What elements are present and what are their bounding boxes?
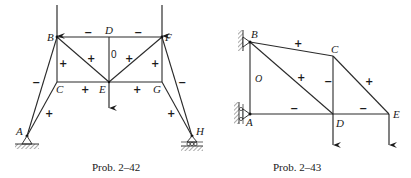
sign-CE: + [365,76,373,87]
sign-FG: + [151,58,159,69]
sign-BE: + [87,53,95,64]
figure-prob-2-42: B D F C E G A H − − + + 0 + + + + − + − … [15,5,205,173]
pin-support-icon [15,136,39,149]
node-label-D: D [104,24,113,36]
wall-pin-support-icon [238,30,250,51]
figure-prob-2-43: B C A D E + O + − + − − Prob. 2–43 [234,28,400,173]
truss-diagrams: B D F C E G A H − − + + 0 + + + + − + − … [0,0,411,178]
sign-DE: 0 [111,49,117,60]
node-label-B: B [251,28,258,40]
sign-CD: − [324,76,332,87]
sign-AC: + [45,108,53,119]
joint-B [56,36,59,39]
sign-CE: + [81,84,89,95]
node-label-A: A [15,125,23,137]
sign-HF: − [178,77,186,88]
node-label-F: F [164,31,172,43]
joint-F [161,36,164,39]
node-label-C: C [56,83,64,95]
node-label-B: B [47,31,54,43]
sign-EG: + [133,84,141,95]
sign-BC: + [59,58,67,69]
node-label-G: G [153,83,161,95]
sign-BD: − [84,27,92,38]
sign-DE: − [359,103,367,114]
node-label-H: H [195,125,205,137]
roller-support-icon [181,136,203,151]
sign-BD: + [297,72,305,83]
node-label-A: A [245,116,253,128]
node-label-C: C [331,43,339,55]
joint-B [249,41,252,44]
sign-AD: − [290,103,298,114]
member-HF [162,37,192,136]
member-BC [250,42,333,56]
sign-HG: + [167,108,175,119]
sign-BA: O [255,73,262,84]
sign-AB: − [32,77,40,88]
node-label-E: E [392,108,400,120]
node-label-D: D [335,117,344,129]
caption-prob-2-42: Prob. 2–42 [92,161,140,173]
caption-prob-2-43: Prob. 2–43 [273,161,322,173]
sign-DF: − [134,27,142,38]
sign-BC: + [294,38,302,49]
node-label-E: E [98,83,106,95]
sign-FE: + [125,53,133,64]
joint-E [108,81,110,83]
